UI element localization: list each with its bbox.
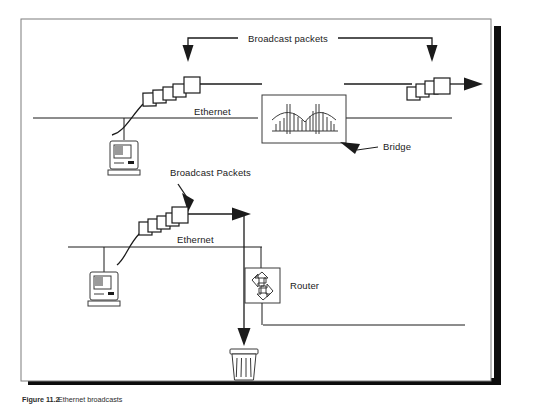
network-diagram-canvas: Broadcast packets Ethernet bbox=[0, 0, 543, 406]
trash-icon bbox=[230, 349, 258, 380]
macintosh-icon bbox=[88, 272, 120, 306]
broadcast-bottom-label: Broadcast Packets bbox=[170, 167, 251, 178]
figure-root: Broadcast packets Ethernet bbox=[0, 0, 543, 406]
bridge-icon-box bbox=[262, 95, 346, 143]
ethernet-top-label: Ethernet bbox=[194, 106, 231, 117]
trash-device[interactable] bbox=[230, 349, 258, 380]
macintosh-bottom[interactable] bbox=[88, 272, 120, 306]
caption-text: Ethernet broadcasts bbox=[58, 395, 123, 404]
bridge-device[interactable] bbox=[262, 95, 346, 143]
broadcast-top-label: Broadcast packets bbox=[248, 33, 328, 44]
ethernet-bottom-label: Ethernet bbox=[177, 234, 214, 245]
macintosh-top[interactable] bbox=[108, 141, 140, 175]
bridge-label: Bridge bbox=[383, 141, 411, 152]
router-label: Router bbox=[290, 280, 319, 291]
figure-frame bbox=[21, 19, 501, 385]
frame-shadow-right bbox=[494, 26, 501, 385]
frame-border bbox=[21, 19, 491, 381]
figure-caption: Figure 11.2 Ethernet broadcasts bbox=[22, 395, 123, 404]
caption-number: Figure 11.2 bbox=[22, 395, 60, 404]
macintosh-icon bbox=[108, 141, 140, 175]
